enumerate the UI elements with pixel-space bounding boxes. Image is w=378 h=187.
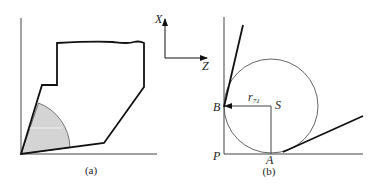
coordinate-axes: X Z — [154, 12, 209, 73]
point-p-label: P — [212, 149, 221, 163]
caption-a: (a) — [85, 164, 98, 177]
x-axis-label: X — [154, 12, 163, 26]
z-axis-label: Z — [202, 59, 209, 73]
panel-b: r71 S B P A (b) — [212, 17, 363, 178]
caption-b: (b) — [263, 165, 276, 178]
upper-tangent-line — [224, 25, 243, 107]
point-s-label: S — [275, 98, 281, 112]
point-b-label: B — [213, 100, 221, 114]
radius-label: r71 — [248, 90, 260, 105]
panel-a: (a) — [21, 18, 157, 177]
lower-tangent-line — [283, 116, 363, 152]
figure: (a) X Z r71 S B P A (b) — [0, 0, 378, 187]
radius-label-subscript: 71 — [253, 97, 260, 105]
